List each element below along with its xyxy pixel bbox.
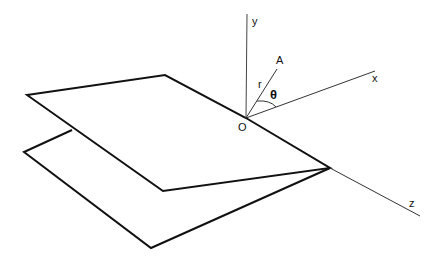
y-axis: [246, 14, 247, 118]
x-axis: [246, 71, 375, 118]
origin-label: O: [238, 121, 247, 133]
z-axis: [330, 168, 420, 216]
angle-label: θ: [270, 87, 277, 102]
y-axis-label: y: [252, 15, 258, 27]
point-label: A: [276, 54, 284, 66]
z-axis-label: z: [409, 197, 415, 209]
radius-label: r: [258, 78, 262, 90]
upper-plane: [27, 75, 330, 191]
diagram-canvas: y x z O A r θ: [0, 0, 440, 263]
x-axis-label: x: [372, 72, 378, 84]
